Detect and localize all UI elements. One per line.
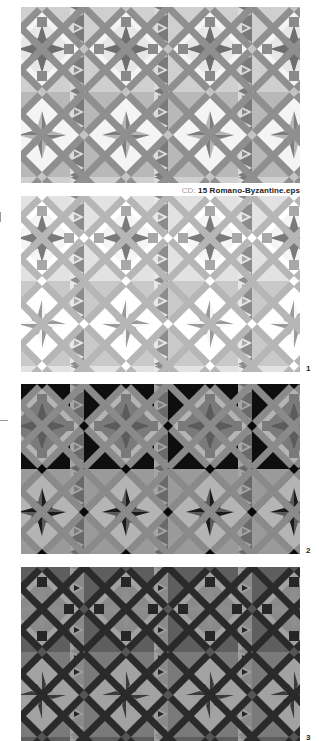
plate-number-2: 2 bbox=[306, 546, 310, 555]
plate-number-3: 3 bbox=[306, 733, 310, 741]
pattern-panel-variant-2 bbox=[21, 384, 300, 554]
cd-caption: CD: 15 Romano-Byzantine.eps bbox=[182, 186, 300, 195]
romano-byzantine-pattern bbox=[21, 384, 300, 554]
romano-byzantine-pattern bbox=[21, 196, 300, 372]
pattern-panel-variant-3 bbox=[21, 567, 300, 741]
pattern-panel-variant-1 bbox=[21, 196, 300, 372]
romano-byzantine-pattern bbox=[21, 7, 300, 183]
romano-byzantine-pattern bbox=[21, 567, 300, 741]
crop-mark bbox=[0, 420, 8, 421]
caption-filename: 15 Romano-Byzantine.eps bbox=[198, 186, 300, 195]
crop-mark bbox=[0, 212, 1, 222]
plate-number-1: 1 bbox=[306, 364, 310, 373]
pattern-panel-original bbox=[21, 7, 300, 183]
caption-prefix: CD: bbox=[182, 186, 196, 195]
